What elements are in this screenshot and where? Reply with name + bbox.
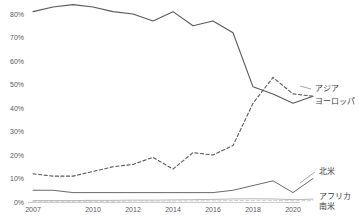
y-tick-label: 80% [10, 11, 24, 18]
x-tick-label: 2007 [25, 206, 41, 213]
series-label-3: アフリカ [319, 192, 351, 201]
series-label-2: 北米 [319, 166, 335, 176]
series-lines [33, 5, 313, 202]
x-axis-tick-labels: 2007201020122014201620182020 [25, 206, 301, 213]
y-tick-label: 30% [10, 128, 24, 135]
chart-canvas: 0%10%20%30%40%50%60%70%80% 2007201020122… [0, 0, 359, 218]
y-tick-label: 60% [10, 58, 24, 65]
y-tick-label: 50% [10, 81, 24, 88]
series-label-1: ヨーロッパ [315, 97, 355, 106]
y-tick-label: 10% [10, 175, 24, 182]
y-axis-tick-labels: 0%10%20%30%40%50%60%70%80% [10, 11, 24, 206]
y-tick-label: 20% [10, 152, 24, 159]
y-tick-label: 40% [10, 105, 24, 112]
leader-line-2 [300, 172, 315, 183]
x-tick-label: 2010 [85, 206, 101, 213]
x-tick-label: 2016 [205, 206, 221, 213]
y-tick-label: 0% [14, 199, 24, 206]
x-tick-label: 2012 [125, 206, 141, 213]
x-tick-label: 2018 [245, 206, 261, 213]
line-chart: 0%10%20%30%40%50%60%70%80% 2007201020122… [0, 0, 359, 218]
series-labels: アジアヨーロッパ北米アフリカ南米 [315, 84, 355, 211]
leader-line-0 [300, 86, 311, 89]
x-tick-label: 2014 [165, 206, 181, 213]
series-label-4: 南米 [319, 201, 335, 211]
series-label-0: アジア [315, 84, 339, 93]
x-tick-label: 2020 [285, 206, 301, 213]
series-line-1 [33, 77, 313, 176]
series-line-0 [33, 5, 313, 104]
y-tick-label: 70% [10, 34, 24, 41]
series-line-2 [33, 179, 313, 193]
